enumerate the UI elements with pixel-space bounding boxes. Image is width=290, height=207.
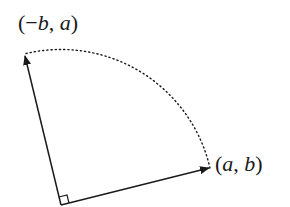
vector-a-b: [61, 168, 209, 205]
vector-neg-b-a: [25, 56, 61, 205]
label-a-b: (a, b): [215, 151, 263, 177]
label-neg-b-a: (−b, a): [18, 10, 78, 36]
rotation-arc: [24, 49, 210, 168]
label-a-b-text: (a, b): [215, 151, 263, 176]
label-neg-b-a-text: (−b, a): [18, 10, 78, 35]
